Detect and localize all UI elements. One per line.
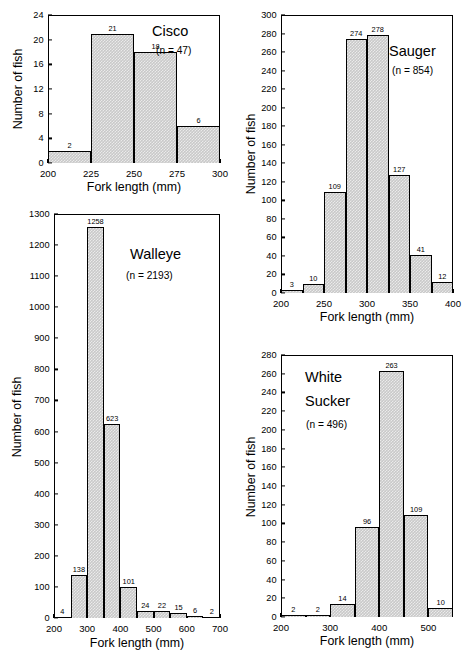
series-n-cisco: (n = 47): [156, 45, 191, 56]
y-axis-tick-mark: [54, 213, 58, 214]
x-axis-tick-label: 200: [40, 168, 56, 179]
y-axis-tick-mark: [54, 555, 58, 556]
bar-value-label: 101: [123, 577, 135, 586]
bar-value-label: 109: [410, 505, 422, 514]
x-axis-tick-mark: [452, 289, 453, 294]
histogram-bar: [355, 527, 380, 617]
y-axis-tick-label: 140: [261, 158, 281, 168]
bar-value-label: 6: [193, 606, 197, 615]
chart-panel-white-sucker: 020406080100120140160180200220240260280 …: [234, 330, 467, 664]
y-axis-tick-label: 24: [33, 10, 48, 20]
y-axis-tick-label: 100: [261, 195, 281, 205]
bar-value-label: 1258: [87, 217, 103, 226]
x-axis-tick-mark: [47, 159, 48, 164]
y-axis-tick-label: 280: [261, 350, 281, 360]
bar-value-label: 138: [73, 565, 85, 574]
x-axis-tick-label: 400: [112, 623, 128, 634]
bar-value-label: 41: [417, 245, 425, 254]
x-axis-tick-mark: [176, 159, 177, 164]
y-axis-tick-label: 1100: [30, 271, 54, 281]
x-axis-tick-mark: [219, 614, 220, 619]
histogram-bar: [91, 34, 134, 164]
bar-value-label: 263: [385, 361, 397, 370]
chart-panel-cisco: 04812162024 200225250275300 221186 Cisco…: [0, 0, 232, 200]
histogram-bar: [187, 616, 204, 618]
x-axis-label-sauger: Fork length (mm): [281, 310, 453, 324]
x-axis-tick-mark: [323, 289, 324, 294]
y-axis-tick-mark: [281, 392, 285, 393]
y-axis-label-cisco: Number of fish: [11, 39, 25, 139]
bar-value-label: 278: [372, 25, 384, 34]
y-axis-tick-mark: [54, 338, 58, 339]
chart-panel-walleye: 0100200300400500600700800900100011001200…: [0, 200, 232, 664]
bar-value-label: 4: [60, 607, 64, 616]
bar-value-label: 2: [210, 607, 214, 616]
x-axis-tick-mark: [186, 614, 187, 619]
y-axis-tick-label: 4: [38, 133, 48, 143]
bar-value-label: 96: [363, 517, 371, 526]
y-axis-tick-mark: [54, 431, 58, 432]
y-axis-tick-mark: [281, 560, 285, 561]
x-axis-label-cisco: Fork length (mm): [48, 180, 220, 194]
bar-value-label: 623: [106, 414, 118, 423]
y-axis-tick-label: 1000: [29, 302, 54, 312]
bar-value-label: 12: [438, 272, 446, 281]
histogram-bar: [428, 608, 453, 617]
histogram-bar: [303, 284, 325, 293]
y-axis-tick-mark: [281, 504, 285, 505]
y-axis-tick-mark: [48, 113, 52, 114]
y-axis-tick-mark: [281, 51, 285, 52]
x-axis-tick-label: 200: [46, 623, 62, 634]
plot-area-sauger: 0204060801001201401601802002202402602803…: [281, 15, 453, 293]
series-n-walleye: (n = 2193): [126, 270, 173, 281]
y-axis-tick-label: 200: [34, 551, 54, 561]
y-axis-tick-mark: [54, 369, 58, 370]
x-axis-tick-label: 350: [402, 298, 418, 309]
x-axis-tick-label: 700: [212, 623, 228, 634]
bar-value-label: 15: [174, 603, 182, 612]
y-axis-tick-mark: [281, 14, 285, 15]
series-title-white-sucker-line2: Sucker: [305, 393, 350, 409]
y-axis-tick-mark: [54, 617, 58, 618]
y-axis-tick-label: 12: [33, 84, 48, 94]
bar-value-label: 2: [67, 141, 71, 150]
y-axis-tick-mark: [54, 244, 58, 245]
x-axis-tick-label: 300: [359, 298, 375, 309]
series-n-sauger: (n = 854): [392, 65, 433, 76]
y-axis-tick-mark: [54, 307, 58, 308]
y-axis-tick-label: 260: [261, 369, 281, 379]
y-axis-tick-mark: [281, 33, 285, 34]
y-axis-tick-label: 400: [34, 489, 54, 499]
bar-value-label: 127: [393, 165, 405, 174]
y-axis-tick-label: 40: [266, 251, 281, 261]
bar-value-label: 3: [290, 280, 294, 289]
x-axis-tick-mark: [428, 613, 429, 618]
bar-value-label: 14: [338, 594, 346, 603]
y-axis-tick-label: 20: [266, 269, 281, 279]
y-axis-tick-mark: [281, 467, 285, 468]
y-axis-tick-mark: [48, 88, 52, 89]
y-axis-tick-label: 40: [266, 575, 281, 585]
y-axis-tick-label: 220: [261, 406, 281, 416]
y-axis-tick-mark: [48, 138, 52, 139]
histogram-bar: [137, 611, 154, 618]
y-axis-tick-mark: [281, 448, 285, 449]
y-axis-tick-mark: [281, 411, 285, 412]
x-axis-tick-mark: [330, 613, 331, 618]
y-axis-tick-mark: [54, 276, 58, 277]
histogram-bar: [203, 617, 220, 618]
y-axis-tick-mark: [281, 354, 285, 355]
y-axis-label-walleye: Number of fish: [10, 367, 24, 467]
series-title-white-sucker-line1: White: [305, 369, 342, 385]
histogram-bar: [324, 192, 346, 293]
chart-panel-sauger: 0204060801001201401601802002202402602803…: [234, 0, 467, 330]
x-axis-tick-label: 300: [322, 622, 338, 633]
y-axis-tick-mark: [54, 524, 58, 525]
x-axis-tick-label: 300: [79, 623, 95, 634]
histogram-bar: [71, 575, 88, 618]
y-axis-tick-label: 1200: [29, 240, 54, 250]
plot-area-walleye: 0100200300400500600700800900100011001200…: [54, 214, 220, 618]
y-axis-tick-label: 100: [261, 518, 281, 528]
y-axis-tick-label: 900: [34, 333, 54, 343]
y-axis-tick-mark: [281, 70, 285, 71]
